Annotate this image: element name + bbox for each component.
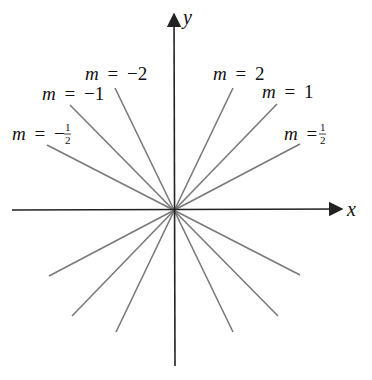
svg-text:m = 1: m = 1 <box>262 81 313 102</box>
label-var: m <box>284 123 298 144</box>
label-val: −2 <box>127 63 147 84</box>
label-m-neg2: m = −2 <box>85 63 147 84</box>
svg-text:m =: m = <box>284 123 317 144</box>
frac-num: 1 <box>320 121 326 133</box>
label-m-neg1: m = −1 <box>42 83 104 104</box>
x-axis-label: x <box>346 198 356 220</box>
label-m-neg-half: m = − 1 2 <box>12 121 71 146</box>
svg-text:m = −1: m = −1 <box>42 83 104 104</box>
label-var: m <box>213 63 227 84</box>
label-eq: = <box>235 63 246 84</box>
x-axis <box>12 209 342 210</box>
svg-text:m = −2: m = −2 <box>85 63 147 84</box>
label-var: m <box>12 123 26 144</box>
label-var: m <box>85 63 99 84</box>
y-axis <box>174 14 175 366</box>
frac-den: 2 <box>65 134 71 146</box>
label-eq: = <box>284 81 295 102</box>
svg-text:m = −: m = − <box>12 123 65 144</box>
label-eq: = <box>107 63 118 84</box>
label-var: m <box>262 81 276 102</box>
y-axis-label: y <box>181 6 192 29</box>
label-var: m <box>42 83 56 104</box>
label-eq: = <box>306 123 317 144</box>
label-m-2: m = 2 <box>213 63 264 84</box>
frac-num: 1 <box>65 121 71 133</box>
slope-diagram: x y m = −2 m = −1 m = − 1 2 m = 2 <box>0 0 372 380</box>
label-val: −1 <box>84 83 104 104</box>
label-eq: = <box>64 83 75 104</box>
label-eq: = <box>34 123 45 144</box>
label-val: − <box>54 123 65 144</box>
svg-text:m = 2: m = 2 <box>213 63 264 84</box>
label-m-half: m = 1 2 <box>284 121 326 146</box>
label-val: 1 <box>304 81 314 102</box>
label-m-1: m = 1 <box>262 81 313 102</box>
frac-den: 2 <box>320 134 326 146</box>
